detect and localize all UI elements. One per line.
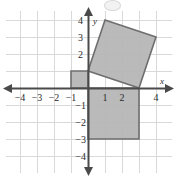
- y-axis-label: y: [92, 16, 97, 26]
- y-tick-label: −2: [75, 117, 86, 128]
- x-tick-label: −2: [49, 92, 60, 103]
- y-tick-label: 3: [78, 32, 83, 43]
- x-tick-label: 1: [103, 92, 108, 103]
- page-header-artifacts: [0, 0, 175, 11]
- x-tick-label: 4: [154, 92, 159, 103]
- math-figure: −4−3−2−1124432−1−2−3−4 x y: [0, 0, 175, 177]
- coordinate-plane-svg: −4−3−2−1124432−1−2−3−4 x y: [0, 0, 175, 177]
- y-tick-label: −4: [75, 151, 86, 162]
- y-tick-label: 2: [78, 49, 83, 60]
- x-tick-label: −4: [15, 92, 26, 103]
- x-tick-label: 2: [120, 92, 125, 103]
- y-tick-label: −3: [75, 134, 86, 145]
- x-tick-label: −3: [32, 92, 43, 103]
- lower-rectangle: [88, 88, 139, 139]
- y-tick-label: −1: [75, 100, 86, 111]
- circle-icon: [104, 0, 121, 11]
- x-axis-label: x: [159, 76, 164, 86]
- small-square: [71, 71, 88, 88]
- y-tick-label: 4: [78, 15, 83, 26]
